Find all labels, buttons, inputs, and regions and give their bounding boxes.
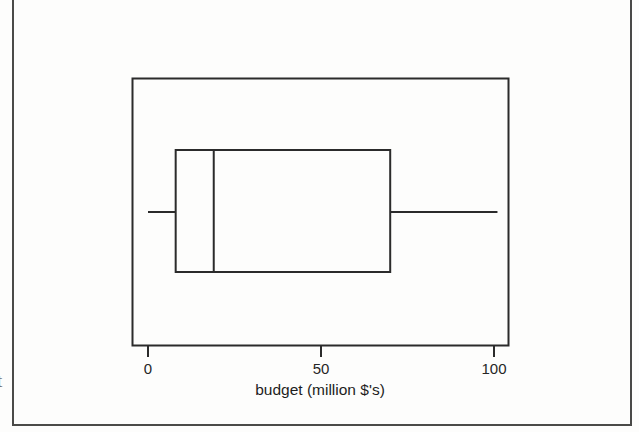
boxplot-figure: 0 50 100 budget (million $'s): [0, 0, 639, 432]
x-tick-label-50: 50: [313, 360, 330, 377]
x-axis-ticks: [148, 345, 494, 357]
boxplot-svg: 0 50 100 budget (million $'s): [0, 0, 639, 432]
box-whisker-glyph: [148, 150, 497, 272]
x-tick-label-0: 0: [144, 360, 152, 377]
scanned-page: t 0 50 100 budget (million $'s): [0, 0, 639, 432]
x-axis-title: budget (million $'s): [255, 381, 385, 398]
x-tick-label-100: 100: [481, 360, 506, 377]
box-rect: [176, 150, 391, 272]
